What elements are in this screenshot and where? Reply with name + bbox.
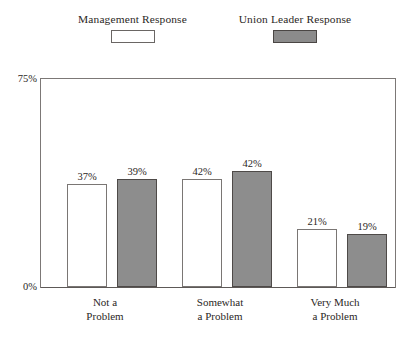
bar-value-label: 42%	[242, 158, 261, 169]
bar-rect	[297, 229, 337, 287]
x-axis-label-line: Problem	[46, 310, 164, 324]
x-axis-label-line: Somewhat	[161, 296, 279, 310]
x-axis-label-line: Not a	[46, 296, 164, 310]
y-axis-tick-0: 0%	[23, 282, 37, 292]
x-axis-label-somewhat-a-problem: Somewhat a Problem	[161, 296, 279, 323]
legend-label-union-leader-response: Union Leader Response	[215, 12, 375, 26]
y-axis-tick-75: 75%	[18, 74, 37, 84]
bar-value-label: 21%	[307, 216, 326, 227]
chart-legend: Management Response Union Leader Respons…	[0, 12, 418, 58]
bar-group-not-a-problem: 37% 39%	[67, 79, 159, 287]
bar-rect	[182, 179, 222, 287]
x-axis-label-very-much-a-problem: Very Much a Problem	[276, 296, 394, 323]
legend-label-management-response: Management Response	[60, 12, 205, 26]
x-axis-label-line: Very Much	[276, 296, 394, 310]
bar-rect	[67, 184, 107, 287]
bar-value-label: 37%	[77, 171, 96, 182]
bar-value-label: 39%	[127, 166, 146, 177]
bar-value-label: 42%	[192, 166, 211, 177]
legend-swatch-union-leader-response	[273, 30, 317, 43]
bar-group-somewhat-a-problem: 42% 42%	[182, 79, 274, 287]
x-axis-label-line: a Problem	[161, 310, 279, 324]
bar-rect	[347, 234, 387, 287]
legend-swatch-management-response	[111, 30, 155, 43]
x-axis-label-line: a Problem	[276, 310, 394, 324]
bar-rect	[232, 171, 272, 287]
legend-item-union-leader-response: Union Leader Response	[215, 12, 375, 43]
bar-rect	[117, 179, 157, 287]
bar-group-very-much-a-problem: 21% 19%	[297, 79, 389, 287]
x-axis-label-not-a-problem: Not a Problem	[46, 296, 164, 323]
axis-baseline	[41, 287, 395, 288]
bar-value-label: 19%	[357, 221, 376, 232]
legend-item-management-response: Management Response	[60, 12, 205, 43]
chart-plot-area: 75% 0% 37% 39% 42% 42% 21% 19%	[40, 78, 396, 288]
